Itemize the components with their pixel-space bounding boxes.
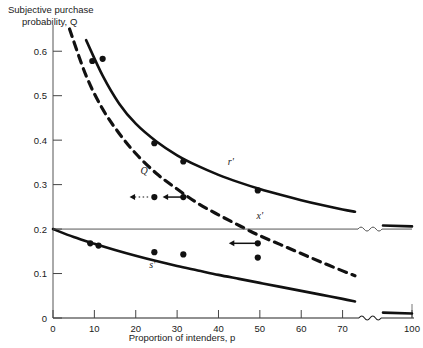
data-point — [151, 249, 157, 255]
curve-Q — [70, 29, 355, 276]
y-axis-title: Subjective purchase probability, Q — [8, 4, 94, 27]
x-tick-label: 70 — [337, 323, 348, 334]
data-point — [87, 240, 93, 246]
axes — [53, 25, 414, 320]
y-tick-label: 0.6 — [34, 46, 47, 57]
x-axis-ticks: 010203040506070100 — [50, 310, 420, 334]
data-point — [100, 56, 106, 62]
y-axis-title-line1: Subjective purchase — [8, 4, 94, 15]
chart-container: Subjective purchase probability, Q 00.10… — [0, 0, 423, 348]
curve-label-x-prime: x' — [256, 210, 264, 221]
y-tick-label: 0.1 — [34, 268, 47, 279]
y-axis-title-line2: probability, Q — [22, 16, 77, 27]
y-tick-label: 0 — [42, 313, 47, 324]
data-point — [180, 158, 186, 164]
y-tick-label: 0.5 — [34, 90, 47, 101]
x-tick-label: 60 — [296, 323, 307, 334]
curve-r-prime-right — [383, 226, 412, 227]
y-tick-label: 0.3 — [34, 179, 47, 190]
curve-r-prime — [86, 40, 355, 212]
data-point — [151, 140, 157, 146]
arrow-lower-solid-head — [229, 240, 235, 246]
x-tick-label: 100 — [404, 323, 420, 334]
curve-label-r-prime: r' — [228, 156, 235, 167]
y-tick-label: 0.4 — [34, 135, 47, 146]
data-point — [95, 242, 101, 248]
data-point — [180, 251, 186, 257]
x-axis-break-wave — [359, 316, 381, 320]
x-tick-label: 50 — [255, 323, 266, 334]
x-axis-title: Proportion of intenders, p — [129, 332, 236, 343]
data-point — [255, 254, 261, 260]
curve-label-s-prime: s' — [149, 259, 156, 270]
y-axis-ticks: 00.10.20.30.40.50.6 — [34, 46, 62, 324]
data-points — [87, 56, 261, 261]
curve-labels: Qr's'x' — [140, 156, 264, 270]
curve-s-prime — [53, 229, 355, 301]
arrow-upper-dotted-head — [130, 194, 136, 200]
data-point — [89, 58, 95, 64]
y-tick-label: 0.2 — [34, 224, 47, 235]
curve-label-Q: Q — [140, 165, 148, 176]
curve-x-prime-break — [358, 227, 382, 231]
x-tick-label: 0 — [50, 323, 55, 334]
curves — [53, 29, 412, 314]
x-tick-label: 10 — [89, 323, 100, 334]
curve-s-prime-right — [383, 313, 412, 314]
data-point — [255, 187, 261, 193]
arrow-upper-solid-head — [163, 194, 169, 200]
subjective-purchase-probability-chart: Subjective purchase probability, Q 00.10… — [0, 0, 423, 348]
data-point — [151, 194, 157, 200]
